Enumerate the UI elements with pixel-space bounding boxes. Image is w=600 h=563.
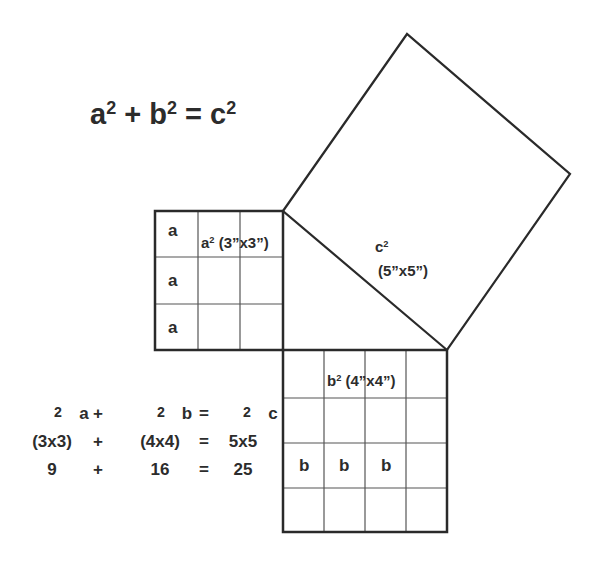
eq-term-c: c2 (217, 404, 277, 429)
eq-term-c: 5x5 (213, 432, 273, 452)
b-side-label: b (299, 456, 309, 476)
b-square-area-label: b2 (4”x4”) (327, 372, 396, 389)
a-side-label: a (168, 318, 177, 338)
b-side-label: b (339, 456, 349, 476)
c-square-dims-label: (5”x5”) (378, 262, 428, 279)
a-square-area-label: a2 (3”x3”) (201, 234, 269, 251)
eq-term-c: 25 (213, 460, 273, 480)
a-side-label: a (168, 221, 177, 241)
a-side-label: a (168, 271, 177, 291)
c-square-area-label: c2 (375, 238, 389, 255)
formula-title: a2 + b2 = c2 (90, 98, 236, 131)
c-square (283, 34, 570, 350)
b-side-label: b (381, 456, 391, 476)
